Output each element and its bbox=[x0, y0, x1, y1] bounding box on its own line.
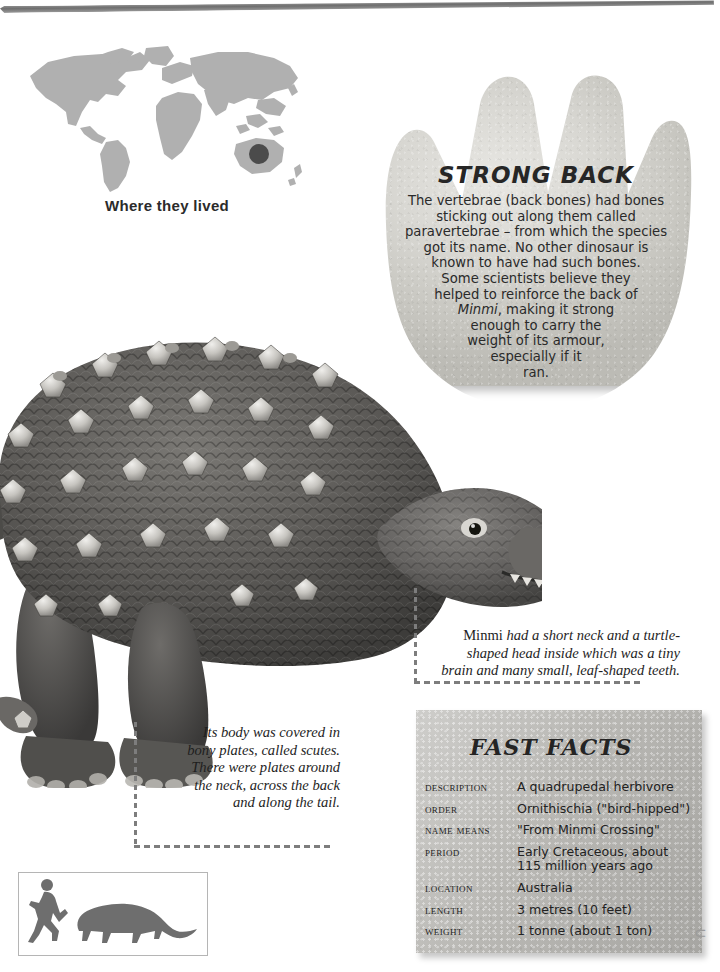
table-row: Length 3 metres (10 feet) bbox=[425, 903, 697, 925]
strong-back-title: STRONG BACK bbox=[394, 162, 678, 188]
running-human-silhouette bbox=[28, 879, 68, 943]
world-map-graphic bbox=[22, 42, 312, 192]
fact-value-weight: 1 tonne (about 1 ton) bbox=[517, 924, 697, 946]
world-map bbox=[22, 42, 312, 192]
fast-facts-table: Description A quadrupedal herbivore Orde… bbox=[425, 780, 697, 946]
scutes-callout-line-3: the neck, across the back bbox=[194, 777, 340, 793]
fact-label-period: Period bbox=[425, 845, 517, 881]
fact-label-order: Order bbox=[425, 802, 517, 824]
table-row: Description A quadrupedal herbivore bbox=[425, 780, 697, 802]
fact-label-location: Location bbox=[425, 881, 517, 903]
head-callout-line-2: brain and many small, leaf-shaped teeth. bbox=[441, 662, 680, 678]
table-row: Order Ornithischia ("bird-hipped") bbox=[425, 802, 697, 824]
scutes-callout-line-2: There were plates around bbox=[191, 759, 340, 775]
strong-back-line-0: The vertebrae (back bones) had bones bbox=[408, 193, 664, 208]
minmi-illustration bbox=[0, 228, 542, 788]
size-comparison-box bbox=[18, 872, 208, 956]
top-rule-divider bbox=[0, 0, 714, 13]
map-location-marker bbox=[249, 144, 269, 164]
fact-value-location: Australia bbox=[517, 881, 697, 903]
fact-label-weight: Weight bbox=[425, 924, 517, 946]
head-callout-line-0: had a short neck and a turtle- bbox=[503, 627, 680, 643]
table-row: Period Early Cretaceous, about 115 milli… bbox=[425, 845, 697, 881]
head-callout-genus: Minmi bbox=[463, 627, 503, 643]
strong-back-line-1: sticking out along them called bbox=[436, 209, 636, 224]
minmi-illustration-graphic bbox=[0, 228, 542, 788]
fast-facts-title: FAST FACTS bbox=[470, 734, 690, 760]
fact-label-description: Description bbox=[425, 780, 517, 802]
scutes-callout-text: Its body was covered in bony plates, cal… bbox=[150, 724, 340, 812]
fast-facts-panel: FAST FACTS Description A quadrupedal her… bbox=[416, 710, 702, 953]
head-callout-text: Minmi had a short neck and a turtle- sha… bbox=[432, 627, 680, 680]
fact-value-length: 3 metres (10 feet) bbox=[517, 903, 697, 925]
fact-label-name-means: Name means bbox=[425, 823, 517, 845]
head-callout-line-1: shaped head inside which was a tiny bbox=[467, 645, 680, 661]
scutes-callout-line-4: and along the tail. bbox=[233, 794, 340, 810]
map-caption: Where they lived bbox=[22, 197, 312, 214]
tail-tip-fragment bbox=[0, 692, 42, 744]
scutes-callout-line-1: bony plates, called scutes. bbox=[187, 742, 340, 758]
page-corner-curl-icon: ⊂ bbox=[694, 925, 710, 941]
minmi-silhouette bbox=[77, 904, 197, 943]
fact-label-length: Length bbox=[425, 903, 517, 925]
table-row: Weight 1 tonne (about 1 ton) bbox=[425, 924, 697, 946]
table-row: Location Australia bbox=[425, 881, 697, 903]
page-root: Where they lived STRONG BACK The vertebr… bbox=[0, 0, 720, 972]
map-landmasses bbox=[30, 46, 302, 192]
fact-value-period: Early Cretaceous, about 115 million year… bbox=[517, 845, 697, 881]
table-row: Name means "From Minmi Crossing" bbox=[425, 823, 697, 845]
scutes-callout-line-0: Its body was covered in bbox=[203, 724, 340, 740]
fact-value-description: A quadrupedal herbivore bbox=[517, 780, 697, 802]
fact-value-order: Ornithischia ("bird-hipped") bbox=[517, 802, 697, 824]
fact-value-name-means: "From Minmi Crossing" bbox=[517, 823, 697, 845]
